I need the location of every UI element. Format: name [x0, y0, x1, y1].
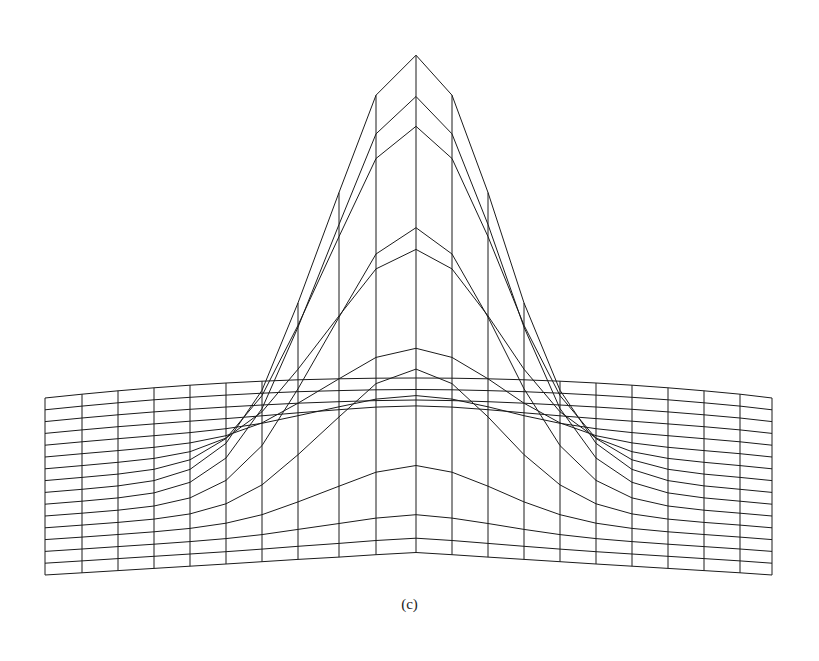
wireframe-surface-figure: [0, 0, 819, 661]
figure-caption: (c): [0, 596, 819, 613]
surface-plot: [0, 0, 819, 661]
